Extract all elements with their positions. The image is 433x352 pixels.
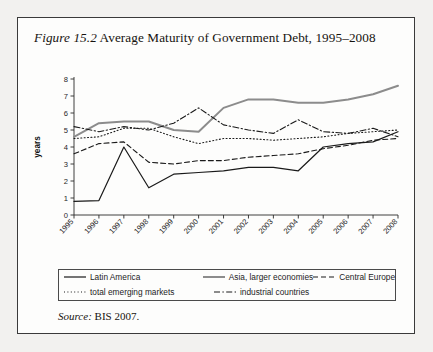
- legend-item-latin-america[interactable]: Latin America: [64, 273, 203, 281]
- y-tick-label: 5: [64, 126, 68, 135]
- x-tick-label: 2006: [332, 217, 350, 236]
- chart-legend: Latin America Asia, larger economies Cen…: [58, 269, 396, 301]
- y-tick-label: 4: [64, 143, 68, 152]
- y-tick-label: 7: [64, 92, 68, 101]
- figure-number: Figure 15.2: [34, 30, 97, 45]
- x-tick-label: 2008: [381, 217, 399, 236]
- page-background: Figure 15.2 Average Maturity of Governme…: [0, 0, 433, 352]
- legend-label-latin-america: Latin America: [90, 273, 140, 281]
- legend-row-1: Latin America Asia, larger economies Cen…: [59, 270, 395, 285]
- x-tick-label: 1997: [107, 217, 125, 236]
- chart-series: [74, 86, 398, 202]
- chart-axes: [71, 77, 399, 219]
- legend-label-total-emerging-markets: total emerging markets: [90, 288, 174, 296]
- legend-swatch-asia: [203, 273, 225, 281]
- legend-item-central-europe[interactable]: Central Europe: [313, 273, 395, 281]
- legend-item-industrial-countries[interactable]: industrial countries: [214, 288, 309, 296]
- legend-swatch-industrial-countries: [214, 288, 236, 296]
- legend-swatch-central-europe: [313, 273, 335, 281]
- x-tick-label: 2002: [232, 217, 250, 236]
- x-tick-label: 1996: [82, 217, 100, 236]
- x-tick-label: 2001: [207, 217, 225, 236]
- x-tick-label: 2004: [282, 217, 300, 236]
- x-tick-label: 2007: [356, 217, 374, 236]
- chart-plot-area: 1995199619971998199920002001200220032004…: [28, 71, 406, 271]
- x-axis-tick-labels: 1995199619971998199920002001200220032004…: [57, 217, 399, 236]
- x-tick-label: 2003: [257, 217, 275, 236]
- x-tick-label: 1999: [157, 217, 175, 236]
- legend-row-2: total emerging markets industrial countr…: [59, 285, 395, 300]
- legend-swatch-total-emerging-markets: [64, 288, 86, 296]
- y-tick-label: 1: [64, 194, 68, 203]
- x-tick-label: 1998: [132, 217, 150, 236]
- source-note: Source: BIS 2007.: [58, 310, 139, 322]
- y-axis-title: years: [33, 136, 42, 158]
- legend-item-total-emerging-markets[interactable]: total emerging markets: [64, 288, 214, 296]
- y-tick-label: 2: [64, 177, 68, 186]
- legend-label-asia: Asia, larger economies: [229, 273, 313, 281]
- line-chart: 1995199619971998199920002001200220032004…: [28, 71, 406, 271]
- series-line: [74, 86, 398, 137]
- y-tick-label: 8: [64, 75, 68, 84]
- y-tick-label: 3: [64, 160, 68, 169]
- figure-frame: Figure 15.2 Average Maturity of Governme…: [17, 17, 415, 334]
- y-axis-tick-labels: 012345678: [64, 75, 68, 220]
- legend-label-industrial-countries: industrial countries: [240, 288, 309, 296]
- legend-swatch-latin-america: [64, 273, 86, 281]
- legend-item-asia[interactable]: Asia, larger economies: [203, 273, 313, 281]
- page-title: Figure 15.2 Average Maturity of Governme…: [34, 30, 394, 47]
- source-word: Source:: [58, 310, 92, 322]
- x-tick-label: 2005: [307, 217, 325, 236]
- series-line: [74, 128, 398, 143]
- y-tick-label: 6: [64, 109, 68, 118]
- legend-label-central-europe: Central Europe: [339, 273, 395, 281]
- figure-title-text: Average Maturity of Government Debt, 199…: [97, 30, 376, 45]
- source-text: BIS 2007.: [92, 310, 139, 322]
- x-tick-label: 2000: [182, 217, 200, 236]
- y-tick-label: 0: [64, 211, 68, 220]
- series-line: [74, 139, 398, 165]
- x-tick-label: 1995: [57, 217, 75, 236]
